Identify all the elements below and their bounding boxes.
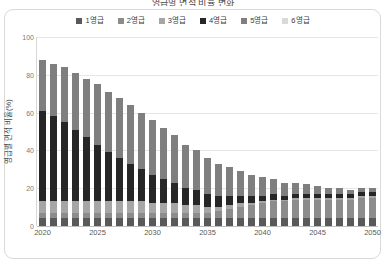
stacked-bar[interactable]: [215, 164, 222, 226]
x-tick-slot: [59, 228, 70, 242]
stacked-bar[interactable]: [369, 188, 376, 226]
bar-segment: [193, 205, 200, 213]
bar-segment: [127, 105, 134, 164]
stacked-bar[interactable]: [292, 183, 299, 226]
bar-segment: [105, 92, 112, 152]
bar-segment: [171, 203, 178, 212]
stacked-bar[interactable]: [193, 150, 200, 226]
bar-segment: [94, 201, 101, 212]
stacked-bar[interactable]: [182, 145, 189, 226]
bar-slot: [345, 37, 356, 226]
stacked-bar[interactable]: [270, 179, 277, 226]
legend-swatch-icon: [241, 18, 247, 24]
bar-segment: [171, 218, 178, 226]
bar-segment: [336, 200, 343, 219]
stacked-bar[interactable]: [248, 175, 255, 226]
bar-segment: [127, 201, 134, 212]
bar-segment: [61, 67, 68, 122]
bar-segment: [193, 218, 200, 226]
bar-slot: [268, 37, 279, 226]
bar-segment: [116, 218, 123, 226]
bar-slot: [81, 37, 92, 226]
bar-segment: [270, 201, 277, 218]
stacked-bar[interactable]: [116, 97, 123, 226]
bar-slot: [279, 37, 290, 226]
x-tick-slot: 2050: [367, 228, 378, 242]
legend-item-3[interactable]: 3영급: [159, 17, 186, 25]
stacked-bar[interactable]: [226, 167, 233, 226]
bar-segment: [61, 218, 68, 226]
legend-label: 4영급: [209, 17, 227, 25]
legend-item-2[interactable]: 2영급: [118, 17, 145, 25]
bar-segment: [182, 188, 189, 205]
stacked-bar[interactable]: [204, 158, 211, 226]
bar-segment: [50, 64, 57, 117]
y-tick-label: 60: [10, 109, 34, 116]
stacked-bar[interactable]: [336, 188, 343, 226]
bar-segment: [248, 218, 255, 226]
bar-segment: [138, 201, 145, 212]
stacked-bar[interactable]: [303, 184, 310, 226]
bar-slot: [290, 37, 301, 226]
bar-segment: [39, 201, 46, 212]
legend-item-4[interactable]: 4영급: [200, 17, 227, 25]
stacked-bar[interactable]: [50, 63, 57, 226]
bar-segment: [193, 150, 200, 190]
legend-item-1[interactable]: 1영급: [76, 17, 103, 25]
stacked-bar[interactable]: [171, 135, 178, 226]
bar-slot: [103, 37, 114, 226]
y-tick-label: 20: [10, 185, 34, 192]
bar-segment: [127, 218, 134, 226]
bar-segment: [105, 218, 112, 226]
stacked-bar[interactable]: [237, 171, 244, 226]
stacked-bar[interactable]: [61, 67, 68, 226]
stacked-bar[interactable]: [281, 183, 288, 226]
bar-segment: [149, 218, 156, 226]
bar-segment: [270, 179, 277, 194]
bar-segment: [303, 184, 310, 193]
stacked-bar[interactable]: [259, 177, 266, 226]
chart-title: 영급별 면적 비율 변화: [0, 0, 386, 6]
bar-segment: [204, 158, 211, 194]
x-tick-slot: [169, 228, 180, 242]
stacked-bar[interactable]: [127, 105, 134, 226]
legend-item-6[interactable]: 6영급: [282, 17, 309, 25]
stacked-bar[interactable]: [83, 79, 90, 226]
stacked-bar[interactable]: [325, 188, 332, 226]
x-tick-slot: 2035: [202, 228, 213, 242]
stacked-bar[interactable]: [72, 73, 79, 226]
bar-segment: [248, 175, 255, 196]
stacked-bar[interactable]: [160, 128, 167, 226]
bar-segment: [215, 196, 222, 207]
bar-segment: [281, 218, 288, 226]
x-tick-slot: [334, 228, 345, 242]
stacked-bar[interactable]: [39, 60, 46, 226]
bar-segment: [94, 218, 101, 226]
bar-slot: [246, 37, 257, 226]
stacked-bar[interactable]: [358, 188, 365, 226]
legend-swatch-icon: [76, 18, 82, 24]
y-tick-label: 100: [10, 34, 34, 41]
stacked-bar[interactable]: [105, 92, 112, 226]
x-axis-ticks: 2020202520302035204020452050: [37, 228, 378, 242]
bar-slot: [257, 37, 268, 226]
legend-item-5[interactable]: 5영급: [241, 17, 268, 25]
stacked-bar[interactable]: [138, 113, 145, 226]
bar-segment: [270, 218, 277, 226]
bar-slot: [92, 37, 103, 226]
stacked-bar[interactable]: [149, 120, 156, 226]
stacked-bar[interactable]: [314, 186, 321, 226]
stacked-bar[interactable]: [347, 190, 354, 226]
stacked-bar[interactable]: [94, 84, 101, 226]
bar-slot: [114, 37, 125, 226]
bar-slot: [356, 37, 367, 226]
bar-slot: [312, 37, 323, 226]
bar-slot: [169, 37, 180, 226]
x-tick-slot: [213, 228, 224, 242]
legend-label: 2영급: [127, 17, 145, 25]
legend-swatch-icon: [159, 18, 165, 24]
x-tick-slot: 2040: [257, 228, 268, 242]
bar-segment: [182, 145, 189, 188]
bar-segment: [182, 205, 189, 213]
bar-segment: [72, 201, 79, 212]
